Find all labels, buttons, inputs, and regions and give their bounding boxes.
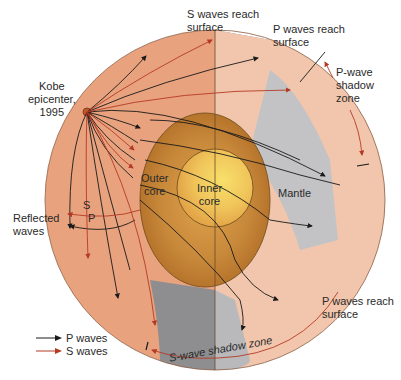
p-waves-reach-bottom-label: P waves reach surface (322, 295, 394, 321)
p-shadow-line2: shadow (336, 79, 374, 92)
p-wave-arrow-icon (36, 334, 62, 342)
inner-core-label: Inner core (197, 182, 222, 208)
p-waves-reach-bottom-line1: P waves reach (322, 295, 394, 308)
legend-p-waves: P waves (36, 332, 107, 344)
reflected-line1: Reflected (13, 212, 59, 225)
outer-core-label: Outer core (141, 172, 169, 198)
reflected-line2: waves (13, 225, 59, 238)
mantle-label: Mantle (278, 187, 311, 200)
legend-p-label: P waves (66, 332, 107, 344)
p-shadow-line3: zone (336, 92, 374, 105)
reflected-s-label: S (83, 199, 90, 212)
earth-seismic-diagram: Kobe epicenter, 1995 S waves reach surfa… (0, 0, 401, 380)
epicenter-label-line2: epicenter, (28, 93, 76, 106)
p-waves-reach-bottom-line2: surface (322, 308, 394, 321)
reflected-p-label: P (88, 212, 95, 225)
outer-core-line1: Outer (141, 172, 169, 185)
s-waves-reach-line2: surface (187, 21, 259, 34)
epicenter-label-line3: 1995 (28, 106, 76, 119)
inner-core-line1: Inner (197, 182, 222, 195)
epicenter-label-line1: Kobe (28, 80, 76, 93)
reflected-waves-label: Reflected waves (13, 212, 59, 238)
s-wave-arrow-icon (36, 347, 62, 355)
p-waves-reach-top-line2: surface (273, 36, 345, 49)
legend-s-waves: S waves (36, 345, 108, 357)
p-waves-reach-top-label: P waves reach surface (273, 23, 345, 49)
s-waves-reach-label: S waves reach surface (187, 8, 259, 34)
p-waves-reach-top-line1: P waves reach (273, 23, 345, 36)
inner-core-line2: core (197, 195, 222, 208)
outer-core-line2: core (141, 185, 169, 198)
p-wave-shadow-zone-label: P-wave shadow zone (336, 66, 374, 105)
s-waves-reach-line1: S waves reach (187, 8, 259, 21)
epicenter-label: Kobe epicenter, 1995 (28, 80, 76, 119)
p-shadow-line1: P-wave (336, 66, 374, 79)
legend-s-label: S waves (66, 345, 108, 357)
